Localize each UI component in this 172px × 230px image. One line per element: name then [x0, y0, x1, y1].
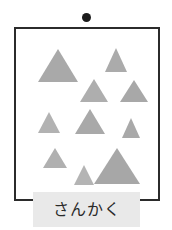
triangle-1 — [38, 49, 78, 82]
triangle-3 — [80, 79, 108, 102]
shapes-area — [16, 29, 162, 203]
triangle-6 — [75, 109, 105, 134]
triangle-2 — [105, 48, 127, 72]
triangle-5 — [38, 112, 60, 133]
triangle-9 — [74, 165, 94, 185]
label-plate: さんかく — [33, 192, 140, 227]
shape-name-label: さんかく — [53, 202, 121, 218]
poster-frame — [14, 27, 160, 201]
black-dot-icon — [82, 13, 91, 22]
triangle-7 — [122, 118, 140, 138]
flashcard: さんかく — [0, 0, 172, 230]
triangle-4 — [120, 80, 148, 102]
triangle-10 — [94, 148, 140, 184]
triangle-8 — [43, 148, 67, 168]
